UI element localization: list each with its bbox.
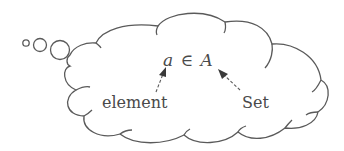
element-symbol: a [163,50,173,70]
tail-circle-large [51,41,70,60]
tail-circle-medium [34,39,47,52]
element-label: element [102,93,167,112]
arrow-element-to-a [156,74,163,92]
cloud-diagram [0,0,344,151]
membership-expression: a ∈ A [163,50,213,70]
arrow-set-to-A [225,76,240,90]
set-symbol: A [201,50,213,70]
set-label: Set [242,93,269,112]
membership-symbol: ∈ [181,50,194,70]
tail-circle-small [23,40,29,46]
